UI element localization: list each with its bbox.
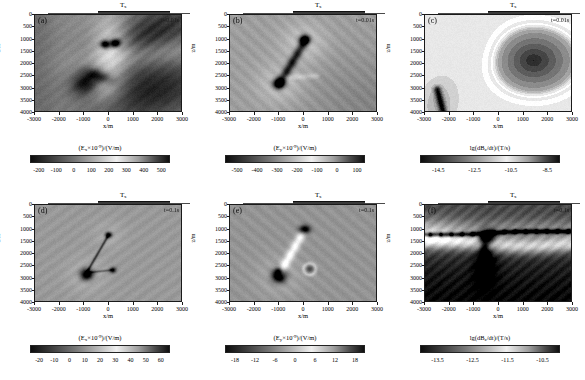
y-tick-label: 2000: [392, 60, 422, 66]
colorbar-a: (Ex×10-9)/(V/m)-200-1000100200300400500: [20, 143, 180, 187]
y-tick-mark: [32, 39, 35, 40]
heatmap-f: [425, 205, 572, 302]
panel-letter-d: (d): [38, 207, 47, 215]
y-tick-label: 2500: [2, 72, 32, 78]
y-tick-label: 500: [197, 23, 227, 29]
colorbar-label-middle: ×10: [282, 144, 292, 151]
y-axis-d: 05001000150020002500300035004000: [0, 204, 32, 302]
y-tick-label: 0: [392, 201, 422, 207]
x-tick-mark: [352, 112, 353, 115]
y-tick-mark: [227, 14, 230, 15]
y-tick-label: 1000: [392, 36, 422, 42]
y-tick-label: 1500: [2, 238, 32, 244]
x-tick-mark: [523, 302, 524, 305]
y-tick-label: 2000: [392, 250, 422, 256]
y-tick-label: 0: [2, 201, 32, 207]
x-axis-label-b: x/m: [229, 122, 377, 129]
y-tick-label: 1500: [197, 238, 227, 244]
y-tick-label: 1500: [392, 48, 422, 54]
colorbar-label-a: (Ex×10-9)/(V/m): [20, 143, 180, 153]
y-tick-mark: [227, 290, 230, 291]
y-tick-mark: [422, 216, 425, 217]
y-tick-label: 3000: [2, 275, 32, 281]
y-tick-mark: [227, 63, 230, 64]
y-tick-label: 4000: [2, 109, 32, 115]
colorbar-label-suffix: )/(V/m): [102, 144, 122, 151]
y-tick-mark: [422, 265, 425, 266]
colorbar-gradient-d: [30, 345, 170, 353]
y-tick-label: 1000: [2, 36, 32, 42]
y-axis-label-d: z/m: [0, 234, 1, 243]
x-tick-mark: [133, 302, 134, 305]
colorbar-label-middle: ×10: [87, 334, 97, 341]
x-tick-mark: [424, 302, 425, 305]
x-tick-mark: [473, 302, 474, 305]
y-tick-mark: [227, 75, 230, 76]
y-tick-label: 2500: [197, 72, 227, 78]
x-tick-mark: [449, 112, 450, 115]
y-tick-mark: [32, 14, 35, 15]
y-tick-label: 500: [392, 213, 422, 219]
x-tick-mark: [157, 112, 158, 115]
y-tick-label: 4000: [197, 299, 227, 305]
y-tick-label: 1000: [197, 226, 227, 232]
y-axis-label-b: z/m: [190, 44, 196, 53]
plot-area-f: [424, 204, 572, 302]
y-axis-b: 05001000150020002500300035004000: [195, 14, 227, 112]
colorbar-tick-label: -11.5: [488, 357, 528, 363]
x-tick-mark: [377, 302, 378, 305]
colorbar-gradient-b: [225, 155, 365, 163]
panel-letter-f: (f): [428, 207, 436, 215]
plot-area-b: [229, 14, 377, 112]
y-tick-label: 1500: [2, 48, 32, 54]
transmitter-label: Tx: [315, 192, 321, 200]
colorbar-gradient-f: [420, 345, 560, 353]
y-tick-label: 4000: [2, 299, 32, 305]
y-tick-label: 3500: [2, 97, 32, 103]
y-tick-mark: [32, 253, 35, 254]
y-tick-mark: [32, 75, 35, 76]
transmitter-label: Tx: [510, 2, 516, 10]
panel-letter-a: (a): [38, 17, 47, 25]
y-axis-label-c: z/m: [385, 44, 391, 53]
x-tick-mark: [473, 112, 474, 115]
y-axis-f: 05001000150020002500300035004000: [390, 204, 422, 302]
x-tick-mark: [254, 112, 255, 115]
y-tick-label: 3000: [392, 275, 422, 281]
plot-area-d: [34, 204, 182, 302]
y-tick-mark: [227, 204, 230, 205]
x-axis-label-a: x/m: [34, 122, 182, 129]
y-tick-label: 500: [197, 213, 227, 219]
y-axis-label-e: z/m: [190, 234, 196, 243]
y-axis-e: 05001000150020002500300035004000: [195, 204, 227, 302]
x-tick-mark: [229, 302, 230, 305]
x-tick-mark: [303, 112, 304, 115]
panel-letter-c: (c): [428, 17, 437, 25]
panel-b: Tx(b)t=0.01s0500100015002000250030003500…: [195, 0, 390, 190]
x-tick-mark: [449, 302, 450, 305]
x-axis-label-e: x/m: [229, 312, 377, 319]
y-tick-mark: [32, 278, 35, 279]
y-tick-label: 500: [2, 23, 32, 29]
x-tick-mark: [182, 302, 183, 305]
y-tick-mark: [227, 278, 230, 279]
colorbar-label-middle: /dt)/(T/s): [487, 334, 510, 341]
y-tick-mark: [422, 253, 425, 254]
transmitter-label-sub: x: [124, 4, 126, 9]
time-label-b: t=0.01s: [356, 17, 374, 23]
y-tick-mark: [227, 216, 230, 217]
colorbar-tick-label: -14.5: [418, 167, 458, 173]
y-tick-mark: [422, 241, 425, 242]
x-tick-mark: [424, 112, 425, 115]
y-tick-mark: [32, 26, 35, 27]
y-tick-mark: [32, 63, 35, 64]
transmitter-label-sub: x: [514, 4, 516, 9]
panel-c: Tx(c)t=0.01s0500100015002000250030003500…: [390, 0, 585, 190]
y-tick-mark: [422, 75, 425, 76]
transmitter-label: Tx: [120, 2, 126, 10]
y-tick-mark: [227, 39, 230, 40]
colorbar-label-prefix: lg(dB: [470, 334, 485, 341]
panel-letter-b: (b): [233, 17, 242, 25]
x-tick-mark: [352, 302, 353, 305]
y-tick-label: 4000: [197, 109, 227, 115]
